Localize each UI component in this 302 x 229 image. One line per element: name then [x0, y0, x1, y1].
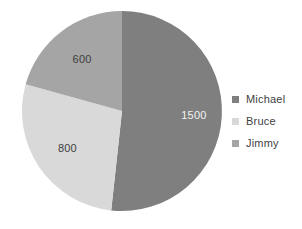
- legend-item-jimmy[interactable]: Jimmy: [232, 132, 302, 154]
- legend-swatch-icon: [232, 96, 239, 103]
- legend-item-label: Michael: [246, 94, 285, 105]
- slice-value-label-bruce: 800: [58, 142, 77, 154]
- legend-swatch-icon: [232, 140, 239, 147]
- legend-item-label: Bruce: [246, 116, 276, 127]
- slice-value-label-jimmy: 600: [73, 53, 92, 65]
- legend-item-bruce[interactable]: Bruce: [232, 110, 302, 132]
- pie-chart: 1500800600 MichaelBruceJimmy: [0, 0, 302, 229]
- legend-item-michael[interactable]: Michael: [232, 88, 302, 110]
- slice-value-label-michael: 1500: [181, 109, 206, 121]
- plot-area: 1500800600: [0, 0, 232, 229]
- legend-swatch-icon: [232, 118, 239, 125]
- legend-item-label: Jimmy: [246, 138, 279, 149]
- legend: MichaelBruceJimmy: [232, 88, 302, 154]
